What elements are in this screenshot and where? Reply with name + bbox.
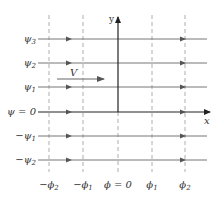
flow-arrow-icon <box>66 61 72 66</box>
flow-arrow-icon <box>66 134 72 139</box>
streamline-label-1: ψ2 <box>24 57 37 70</box>
flow-arrow-icon <box>66 158 72 163</box>
equipotential-label-4: ϕ2 <box>179 179 191 192</box>
equipotential-label-0: −ϕ2 <box>39 179 59 192</box>
diagram-svg: y x V ψ3ψ2ψ1ψ = 0−ψ1−ψ2 −ϕ2−ϕ1ϕ = 0ϕ1ϕ2 <box>0 0 220 198</box>
y-axis-label: y <box>108 14 115 24</box>
equipotential-labels: −ϕ2−ϕ1ϕ = 0ϕ1ϕ2 <box>39 179 191 192</box>
equipotential-label-2: ϕ = 0 <box>104 179 133 190</box>
flow-arrow-icon <box>66 85 72 90</box>
flow-arrow-icon <box>66 110 72 115</box>
equipotential-label-3: ϕ1 <box>146 179 157 192</box>
streamlines <box>38 37 210 163</box>
flow-arrow-icon <box>66 37 72 42</box>
streamline-label-5: −ψ2 <box>15 154 36 167</box>
equipotential-label-1: −ϕ1 <box>73 179 93 192</box>
streamline-label-2: ψ1 <box>24 81 36 94</box>
streamline-label-3: ψ = 0 <box>7 106 37 117</box>
uniform-flow-diagram: y x V ψ3ψ2ψ1ψ = 0−ψ1−ψ2 −ϕ2−ϕ1ϕ = 0ϕ1ϕ2 <box>0 0 220 198</box>
streamline-label-4: −ψ1 <box>15 130 36 143</box>
x-axis-label: x <box>204 115 210 126</box>
velocity-label: V <box>70 67 79 78</box>
streamline-labels: ψ3ψ2ψ1ψ = 0−ψ1−ψ2 <box>7 33 37 167</box>
streamline-label-0: ψ3 <box>24 33 37 46</box>
